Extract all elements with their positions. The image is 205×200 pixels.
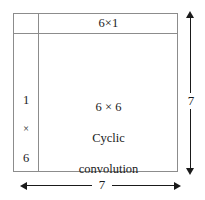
top-strip-label: 6×1: [39, 14, 178, 33]
arrow-right-head-icon: [174, 182, 181, 190]
core-block-label-line-1: 6 × 6: [39, 100, 178, 116]
left-strip-label: 1 × 6: [14, 78, 38, 180]
core-block-label-line-2: Cyclic: [39, 131, 178, 147]
diagram-canvas: 6×1 1 × 6 6 × 6 Cyclic convolution 7 7: [0, 0, 205, 200]
left-strip-label-line-2: ×: [14, 122, 38, 137]
core-block-label-line-3: convolution: [39, 162, 178, 178]
left-strip-label-line-1: 1: [14, 93, 38, 108]
arrow-down-head-icon: [186, 168, 194, 175]
left-strip-label-line-3: 6: [14, 151, 38, 166]
vertical-dimension-label: 7: [184, 93, 198, 109]
horizontal-dimension-label: 7: [92, 177, 112, 193]
